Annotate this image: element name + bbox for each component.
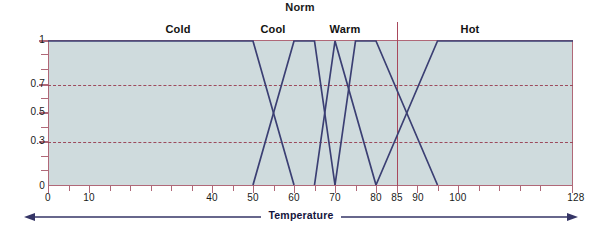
y-tick-minor-5 (41, 156, 48, 157)
marker-line-85 (397, 22, 398, 186)
y-tick-minor-3 (41, 98, 48, 99)
y-axis-line (48, 40, 49, 186)
set-label-cold: Cold (148, 23, 208, 35)
x-tick-30 (171, 185, 172, 191)
x-axis-label-50: 50 (233, 192, 273, 203)
chart-root: Norm 1 0.7 0.5 0.3 0 0 10 40 50 (0, 0, 600, 232)
x-axis-label-128: 128 (556, 192, 596, 203)
x-tick-15 (110, 185, 111, 191)
x-tick-35 (192, 185, 193, 191)
y-axis-label-1: 1 (13, 34, 45, 45)
set-label-warm: Warm (315, 23, 375, 35)
x-axis-label-40: 40 (192, 192, 232, 203)
x-tick-75 (356, 185, 357, 191)
x-axis-label-60: 60 (274, 192, 314, 203)
guideline-0.3 (48, 142, 573, 143)
x-tick-55 (274, 185, 275, 191)
x-tick-115 (520, 185, 521, 191)
temperature-axis-caption: Temperature (24, 209, 578, 221)
y-axis-label-0.7: 0.7 (13, 78, 45, 89)
plot-area (48, 40, 573, 186)
x-tick-20 (130, 185, 131, 191)
guideline-0.7 (48, 85, 573, 86)
plot-top-border (48, 40, 573, 41)
x-axis-label-70: 70 (315, 192, 355, 203)
x-axis-label-10: 10 (69, 192, 109, 203)
y-tick-minor-4 (41, 127, 48, 128)
set-label-hot: Hot (440, 23, 500, 35)
x-tick-120 (540, 185, 541, 191)
x-axis-label-0: 0 (28, 192, 68, 203)
x-tick-105 (479, 185, 480, 191)
temperature-axis-caption-text: Temperature (261, 209, 340, 221)
y-tick-minor-2 (41, 69, 48, 70)
x-axis-label-100: 100 (438, 192, 478, 203)
x-tick-5 (69, 185, 70, 191)
chart-title: Norm (0, 1, 600, 13)
x-tick-95 (438, 185, 439, 191)
y-tick-minor-1 (41, 54, 48, 55)
y-axis-label-0.5: 0.5 (13, 106, 45, 117)
temperature-axis: Temperature (24, 206, 578, 228)
x-tick-45 (233, 185, 234, 191)
x-axis-line (48, 185, 573, 186)
y-axis-label-0.3: 0.3 (13, 135, 45, 146)
x-tick-110 (499, 185, 500, 191)
set-label-cool: Cool (243, 23, 303, 35)
y-axis-label-0: 0 (13, 180, 45, 191)
x-tick-25 (151, 185, 152, 191)
x-tick-65 (315, 185, 316, 191)
x-axis-label-90: 90 (398, 192, 438, 203)
y-tick-minor-6 (41, 170, 48, 171)
